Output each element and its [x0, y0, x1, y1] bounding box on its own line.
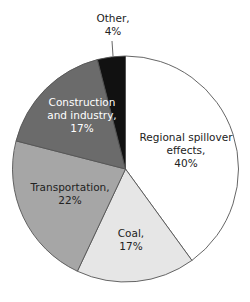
label-coal-value: 17%: [111, 240, 151, 253]
label-regional-value: 40%: [136, 157, 236, 170]
label-coal-name: Coal,: [111, 227, 151, 240]
label-regional: Regional spillover effects, 40%: [136, 131, 236, 170]
label-construction-name2: and industry,: [32, 109, 132, 122]
label-construction-name1: Construction: [32, 96, 132, 109]
label-transportation-name: Transportation,: [20, 181, 120, 194]
other-leader-line: [112, 41, 113, 56]
label-regional-name1: Regional spillover: [136, 131, 236, 144]
label-transportation: Transportation, 22%: [20, 181, 120, 207]
label-construction-value: 17%: [32, 122, 132, 135]
label-regional-name2: effects,: [136, 144, 236, 157]
label-other: Other, 4%: [88, 12, 138, 38]
label-other-name: Other,: [88, 12, 138, 25]
label-coal: Coal, 17%: [111, 227, 151, 253]
label-construction: Construction and industry, 17%: [32, 96, 132, 135]
label-other-value: 4%: [88, 25, 138, 38]
label-transportation-value: 22%: [20, 194, 120, 207]
